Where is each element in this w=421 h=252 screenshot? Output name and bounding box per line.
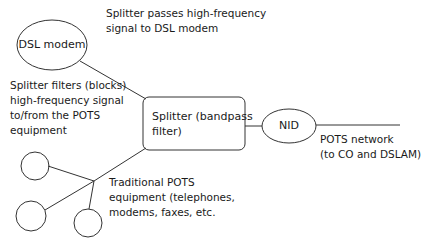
pots-device-circle-3 bbox=[74, 209, 102, 237]
pots-device-circle-1 bbox=[21, 152, 49, 180]
splitter-text-line-2: filter) bbox=[152, 124, 253, 139]
dsl-modem-label: DSL modem bbox=[17, 37, 87, 52]
annotation-line: Splitter passes high-frequency bbox=[106, 6, 266, 21]
splitter-filters-annotation: Splitter filters (blocks) high-frequency… bbox=[10, 78, 126, 138]
dsl-modem-text: DSL modem bbox=[19, 38, 86, 51]
pots-network-annotation: POTS network (to CO and DSLAM) bbox=[320, 132, 421, 162]
splitter-text-line-1: Splitter (bandpass bbox=[152, 109, 253, 124]
annotation-line: modems, faxes, etc. bbox=[109, 205, 235, 220]
annotation-line: to/from the POTS bbox=[10, 108, 126, 123]
pots-device-circle-2 bbox=[16, 201, 46, 231]
nid-text: NID bbox=[279, 119, 299, 132]
annotation-line: equipment bbox=[10, 123, 126, 138]
splitter-label: Splitter (bandpass filter) bbox=[152, 109, 253, 139]
annotation-line: high-frequency signal bbox=[10, 93, 126, 108]
junction-to-phone3-line bbox=[89, 181, 94, 209]
annotation-line: Traditional POTS bbox=[109, 175, 235, 190]
nid-label: NID bbox=[262, 118, 316, 133]
junction-to-phone1-line bbox=[48, 166, 94, 181]
splitter-passes-annotation: Splitter passes high-frequency signal to… bbox=[106, 6, 266, 36]
annotation-line: (to CO and DSLAM) bbox=[320, 147, 421, 162]
junction-to-phone2-line bbox=[45, 181, 94, 210]
annotation-line: equipment (telephones, bbox=[109, 190, 235, 205]
annotation-line: Splitter filters (blocks) bbox=[10, 78, 126, 93]
annotation-line: POTS network bbox=[320, 132, 421, 147]
traditional-pots-annotation: Traditional POTS equipment (telephones, … bbox=[109, 175, 235, 220]
annotation-line: signal to DSL modem bbox=[106, 21, 266, 36]
